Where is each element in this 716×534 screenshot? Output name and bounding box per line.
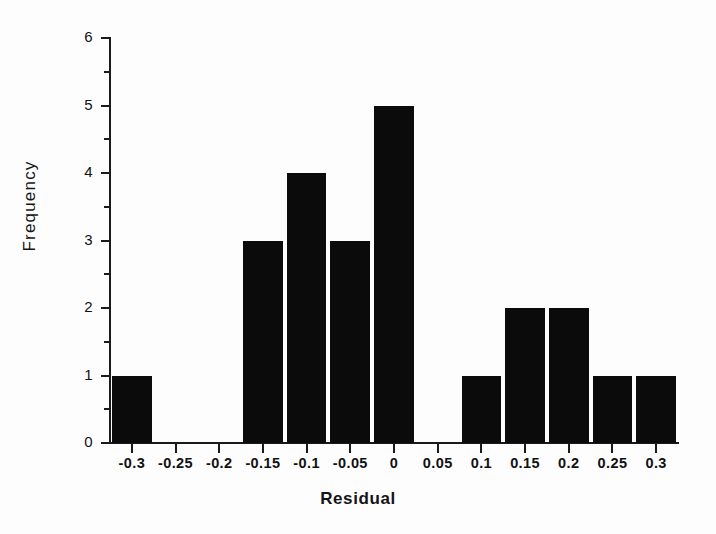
x-tick-label: -0.2: [206, 455, 233, 471]
y-tick-label: 6: [63, 28, 93, 45]
y-major-tick: [101, 105, 109, 107]
y-minor-tick: [104, 408, 109, 410]
histogram-bar: [505, 308, 545, 443]
y-major-tick: [101, 172, 109, 174]
x-tick-label: -0.15: [245, 455, 280, 471]
y-major-tick: [101, 37, 109, 39]
x-tick-label: 0.3: [645, 455, 666, 471]
y-major-tick: [101, 240, 109, 242]
x-tick-label: 0.05: [423, 455, 453, 471]
y-minor-tick: [104, 273, 109, 275]
y-tick-label: 0: [63, 433, 93, 450]
histogram-bar: [549, 308, 589, 443]
y-tick-label: 5: [63, 96, 93, 113]
histogram-bar: [593, 376, 633, 444]
histogram-figure: 0123456 -0.3-0.25-0.2-0.15-0.1-0.0500.05…: [0, 0, 716, 534]
y-axis-tick-labels: 0123456: [63, 0, 93, 534]
x-tick-label: 0.1: [471, 455, 492, 471]
x-major-tick: [568, 444, 570, 453]
y-axis-title: Frequency: [20, 116, 40, 296]
y-major-tick: [101, 442, 109, 444]
x-major-tick: [524, 444, 526, 453]
y-tick-label: 4: [63, 163, 93, 180]
x-major-tick: [262, 444, 264, 453]
y-major-tick: [101, 375, 109, 377]
x-tick-label: 0.25: [598, 455, 628, 471]
x-major-tick: [218, 444, 220, 453]
x-major-tick: [349, 444, 351, 453]
x-tick-label: -0.3: [119, 455, 146, 471]
x-major-tick: [480, 444, 482, 453]
x-tick-label: 0.15: [510, 455, 540, 471]
x-tick-label: -0.05: [333, 455, 368, 471]
histogram-bar: [112, 376, 152, 444]
x-major-tick: [437, 444, 439, 453]
x-tick-label: -0.25: [158, 455, 193, 471]
y-tick-label: 1: [63, 366, 93, 383]
x-major-tick: [306, 444, 308, 453]
histogram-bar: [287, 173, 327, 443]
histogram-bar: [636, 376, 676, 444]
x-major-tick: [611, 444, 613, 453]
y-major-tick: [101, 307, 109, 309]
plot-area: [110, 38, 678, 443]
histogram-bar: [243, 241, 283, 444]
x-tick-label: -0.1: [293, 455, 320, 471]
y-minor-tick: [104, 341, 109, 343]
x-major-tick: [131, 444, 133, 453]
x-major-tick: [655, 444, 657, 453]
x-major-tick: [393, 444, 395, 453]
y-minor-tick: [104, 71, 109, 73]
histogram-bar: [330, 241, 370, 444]
x-major-tick: [175, 444, 177, 453]
x-tick-label: 0.2: [558, 455, 579, 471]
x-axis-title: Residual: [0, 489, 716, 509]
x-tick-label: 0: [390, 455, 398, 471]
y-minor-tick: [104, 206, 109, 208]
y-tick-label: 2: [63, 298, 93, 315]
histogram-bar: [462, 376, 502, 444]
y-tick-label: 3: [63, 231, 93, 248]
histogram-bar: [374, 106, 414, 444]
y-minor-tick: [104, 138, 109, 140]
